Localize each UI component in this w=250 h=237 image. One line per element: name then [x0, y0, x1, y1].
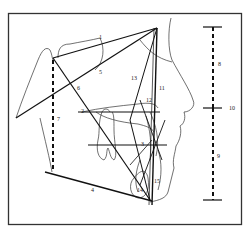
figure-frame — [9, 14, 242, 225]
line-label-15: 15 — [154, 178, 160, 184]
line-label-4: 4 — [91, 187, 94, 193]
line-label-12: 12 — [146, 97, 152, 103]
line-label-11: 11 — [159, 85, 165, 91]
line-label-6: 6 — [77, 85, 80, 91]
line-label-14: 14 — [137, 187, 143, 193]
line-label-8: 8 — [218, 61, 221, 67]
line-label-1: 1 — [99, 34, 102, 40]
cephalometric-lines — [16, 28, 167, 205]
line-label-10: 10 — [229, 105, 235, 111]
vertical-scale-bar — [203, 27, 222, 200]
line-label-9: 9 — [217, 153, 220, 159]
cephalometric-diagram — [0, 0, 250, 237]
line-label-5: 5 — [99, 69, 102, 75]
anatomical-outline — [16, 18, 194, 202]
line-label-7: 7 — [57, 116, 60, 122]
line-1-sn — [53, 28, 157, 58]
line-label-13: 13 — [131, 75, 137, 81]
line-label-3: 3 — [141, 141, 144, 147]
line-label-2: 2 — [81, 108, 84, 114]
